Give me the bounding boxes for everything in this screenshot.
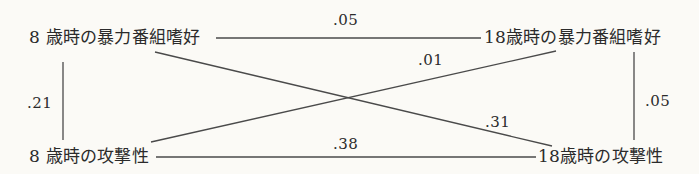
coef-top-horizontal: .05 — [333, 11, 358, 29]
node-top-left: 8 歳時の暴力番組嗜好 — [29, 27, 200, 47]
node-top-right: 18歳時の暴力番組嗜好 — [484, 27, 661, 47]
coef-diag-bl-tr: .01 — [418, 51, 443, 69]
node-bottom-right: 18歳時の攻撃性 — [538, 146, 663, 166]
coef-diag-tl-br: .31 — [485, 113, 510, 131]
cross-lagged-diagram: 8 歳時の暴力番組嗜好 18歳時の暴力番組嗜好 8 歳時の攻撃性 18歳時の攻撃… — [0, 0, 699, 174]
path-line-diag-tl-br — [155, 52, 552, 146]
coef-right-vertical: .05 — [645, 92, 670, 110]
node-bottom-left: 8 歳時の攻撃性 — [29, 146, 149, 166]
coef-bottom-horizontal: .38 — [333, 135, 358, 153]
coef-left-vertical: .21 — [27, 94, 52, 112]
